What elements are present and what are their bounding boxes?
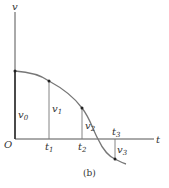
v3-label: v3	[117, 144, 128, 157]
point-v2	[81, 107, 84, 110]
point-v3	[114, 158, 117, 161]
velocity-time-diagram: v t O v0 v1 v2 v3 t1 t2 t3 (b)	[0, 0, 169, 188]
figure-caption: (b)	[83, 168, 96, 178]
t2-label: t2	[78, 141, 87, 154]
v0-label: v0	[18, 109, 29, 122]
v-axis-label: v	[12, 1, 18, 12]
t1-label: t1	[45, 141, 54, 154]
point-v1	[48, 80, 51, 83]
v1-label: v1	[52, 103, 62, 116]
v2-label: v2	[85, 120, 96, 133]
t3-label: t3	[112, 126, 121, 139]
t-axis-label: t	[156, 134, 161, 145]
point-v0	[14, 70, 17, 73]
origin-label: O	[4, 139, 12, 150]
velocity-curve	[15, 71, 126, 164]
